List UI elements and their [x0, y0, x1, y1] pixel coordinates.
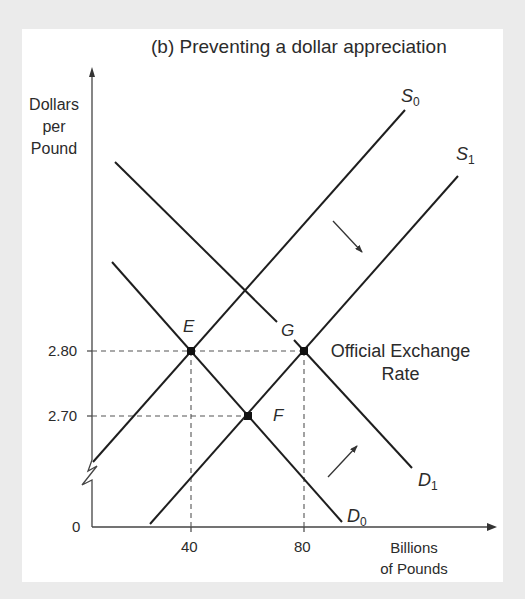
curve-label-s1: S1 — [456, 144, 475, 167]
curve-label-s0: S0 — [401, 86, 420, 109]
demand-curve-d0 — [112, 262, 342, 522]
x-axis-label: Billions of Pounds — [374, 537, 454, 579]
point-label-e: E — [183, 317, 194, 337]
x-tick-label: 40 — [181, 538, 198, 555]
y-axis-label-line: Pound — [22, 138, 86, 160]
y-tick-label: 2.80 — [48, 342, 77, 359]
demand-shift-arrow — [333, 221, 362, 252]
x-axis-label-line: Billions — [374, 537, 454, 558]
point-label-g: G — [281, 321, 294, 341]
curve-label-d1: D1 — [418, 470, 438, 493]
official-exchange-rate-annotation: Official Exchange Rate — [318, 340, 483, 386]
point-g-marker — [300, 347, 308, 355]
point-e-marker — [187, 347, 195, 355]
point-f-marker — [244, 412, 252, 420]
supply-shift-arrow — [328, 446, 357, 477]
x-axis-label-line: of Pounds — [374, 558, 454, 579]
x-axis — [92, 523, 497, 531]
curve-label-d0: D0 — [347, 506, 367, 529]
y-axis-label: Dollars per Pound — [22, 94, 86, 160]
x-tick-label: 80 — [294, 538, 311, 555]
y-axis-label-line: Dollars — [22, 94, 86, 116]
y-tick-label: 2.70 — [48, 407, 77, 424]
point-label-f: F — [273, 406, 283, 426]
annotation-line: Official Exchange — [318, 340, 483, 363]
reference-lines — [92, 351, 304, 527]
annotation-line: Rate — [318, 363, 483, 386]
chart-canvas — [0, 0, 525, 599]
chart-title: (b) Preventing a dollar appreciation — [151, 36, 447, 58]
y-tick-label: 0 — [72, 518, 80, 535]
y-axis-label-line: per — [22, 116, 86, 138]
